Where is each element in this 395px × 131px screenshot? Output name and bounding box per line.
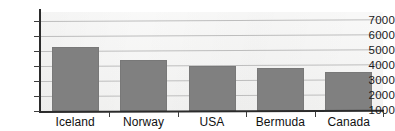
cropped-title-fragment — [0, 0, 395, 7]
x-axis-line — [39, 110, 384, 113]
bar — [189, 66, 236, 111]
y-axis-label: 4000 — [361, 60, 395, 72]
y-axis-tick — [34, 51, 40, 52]
y-axis-label: 7000 — [361, 15, 395, 27]
plot-area — [41, 12, 383, 111]
x-axis-label: Norway — [109, 116, 177, 129]
y-axis-tick — [34, 111, 40, 112]
y-axis-tick — [34, 81, 40, 82]
y-axis-tick — [34, 21, 40, 22]
y-axis-tick — [34, 36, 40, 37]
x-axis-label: USA — [178, 116, 246, 129]
bar — [120, 60, 167, 111]
y-axis-label: 5000 — [361, 45, 395, 57]
gridline — [41, 19, 383, 22]
chart-screenshot: 1000200030004000500060007000 IcelandNorw… — [0, 0, 395, 131]
x-axis-label: Bermuda — [246, 116, 314, 129]
y-axis-label: 2000 — [361, 90, 395, 102]
bar — [257, 68, 304, 111]
bar-chart: 1000200030004000500060007000 IcelandNorw… — [0, 7, 395, 131]
y-axis-tick — [34, 96, 40, 97]
bar — [52, 47, 99, 111]
gridline — [41, 34, 383, 37]
x-axis-label: Canada — [315, 116, 383, 129]
x-axis-label: Iceland — [41, 116, 109, 129]
y-axis-tick — [34, 66, 40, 67]
y-axis-label: 3000 — [361, 75, 395, 87]
x-axis-tick — [383, 112, 384, 117]
y-axis-label: 6000 — [361, 30, 395, 42]
y-axis-line — [39, 9, 41, 113]
